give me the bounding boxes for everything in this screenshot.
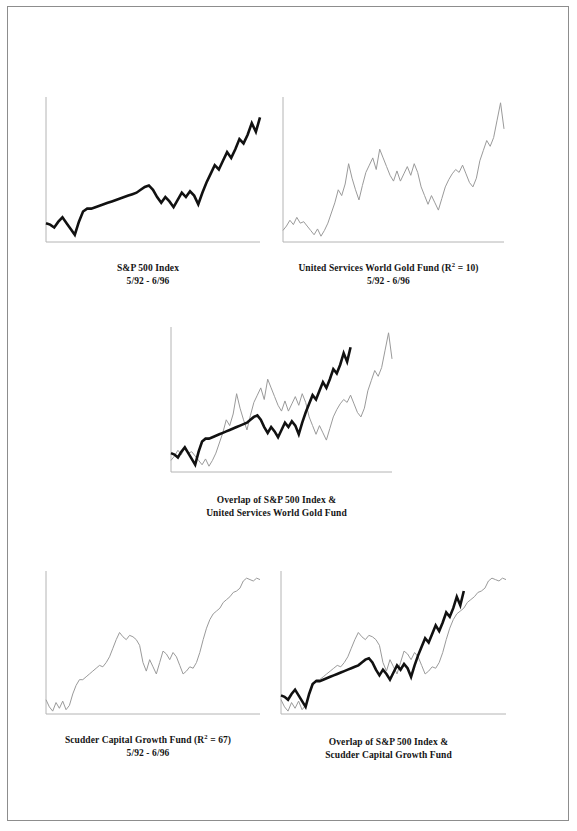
caption-line-2: Scudder Capital Growth Fund	[267, 749, 510, 762]
figure-caption-sp500: S&P 500 Index 5/92 - 6/96	[32, 262, 264, 288]
caption-text-pre: United Services World Gold Fund (R	[298, 263, 451, 273]
caption-text-post: = 67)	[208, 735, 231, 745]
figure-sp500-index: S&P 500 Index 5/92 - 6/96	[32, 89, 264, 288]
caption-text-post: = 10)	[455, 263, 478, 273]
figure-overlap-sp500-gold: Overlap of S&P 500 Index & United Servic…	[157, 319, 396, 520]
figure-overlap-sp500-scudder: Overlap of S&P 500 Index & Scudder Capit…	[267, 563, 510, 762]
series-line	[283, 103, 504, 236]
caption-line-2: 5/92 - 6/96	[269, 275, 508, 288]
chart-overlap-sp500-gold	[157, 319, 396, 484]
caption-line-1: United Services World Gold Fund (R2 = 10…	[269, 262, 508, 275]
series-line	[171, 347, 351, 464]
chart-overlap-sp500-scudder	[267, 563, 510, 726]
series-line	[281, 591, 464, 707]
caption-line-1: Overlap of S&P 500 Index &	[157, 494, 396, 507]
caption-line-1: Overlap of S&P 500 Index &	[267, 736, 510, 749]
caption-text-pre: Scudder Capital Growth Fund (R	[65, 735, 204, 745]
chart-sp500-index	[32, 89, 264, 254]
figure-caption-overlap-gold: Overlap of S&P 500 Index & United Servic…	[157, 494, 396, 520]
figure-caption-overlap-scudder: Overlap of S&P 500 Index & Scudder Capit…	[267, 736, 510, 762]
chart-world-gold-fund	[269, 89, 508, 254]
document-page: S&P 500 Index 5/92 - 6/96 United Service…	[7, 6, 569, 821]
series-line	[46, 117, 260, 234]
figure-caption-scudder: Scudder Capital Growth Fund (R2 = 67) 5/…	[32, 734, 264, 760]
figure-caption-gold: United Services World Gold Fund (R2 = 10…	[269, 262, 508, 288]
series-line	[46, 578, 260, 711]
figure-world-gold-fund: United Services World Gold Fund (R2 = 10…	[269, 89, 508, 288]
caption-line-1: S&P 500 Index	[32, 262, 264, 275]
caption-line-2: 5/92 - 6/96	[32, 275, 264, 288]
series-line	[281, 578, 506, 711]
caption-line-1: Scudder Capital Growth Fund (R2 = 67)	[32, 734, 264, 747]
caption-line-2: United Services World Gold Fund	[157, 507, 396, 520]
chart-scudder-capital-growth	[32, 563, 264, 726]
figure-scudder-capital-growth: Scudder Capital Growth Fund (R2 = 67) 5/…	[32, 563, 264, 760]
caption-line-2: 5/92 - 6/96	[32, 747, 264, 760]
series-line	[171, 333, 392, 466]
